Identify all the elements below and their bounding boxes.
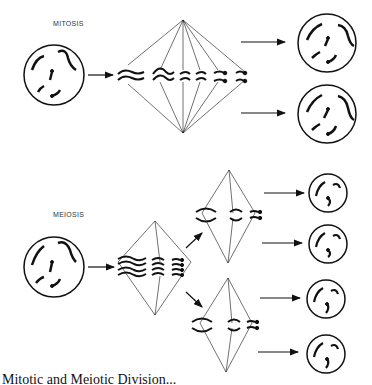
mitosis-daughter-cell-2 <box>298 85 356 143</box>
meiosis-daughter-cell-2 <box>309 225 347 263</box>
meiosis-daughter-cell-1 <box>309 174 347 212</box>
mitosis-spindle <box>128 20 245 133</box>
meiosis-chromosomes-1 <box>118 257 180 277</box>
mitosis-parent-cell <box>24 45 84 105</box>
meiosis-daughter-cell-3 <box>307 280 345 318</box>
cell-division-diagram <box>0 0 372 385</box>
meiosis-parent-cell <box>24 237 84 297</box>
figure-caption: Mitotic and Meiotic Division... <box>2 372 176 385</box>
mitosis-daughter-cell-1 <box>298 14 356 72</box>
meiosis-spindle-2a <box>202 170 255 263</box>
meiosis-daughter-cell-4 <box>307 335 345 373</box>
meiosis-spindle-2b <box>200 278 252 372</box>
